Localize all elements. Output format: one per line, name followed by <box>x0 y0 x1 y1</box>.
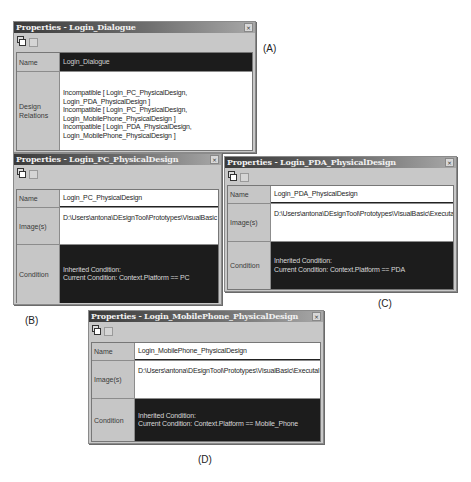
property-row-condition[interactable]: Condition Inherited Condition: Current C… <box>228 242 453 289</box>
property-row-images[interactable]: Image(s) D:\Users\antona\DEsignTool\Prot… <box>228 204 453 242</box>
property-value-condition[interactable]: Inherited Condition: Current Condition: … <box>135 399 320 441</box>
property-row-images[interactable]: Image(s) D:\Users\antona\DEsignTool\Prot… <box>17 208 218 245</box>
property-value[interactable]: Login_PC_PhysicalDesign <box>60 190 218 207</box>
property-label: Name <box>92 343 135 360</box>
property-table: Name Login_PDA_PhysicalDesign Image(s) D… <box>227 185 454 290</box>
property-grid-icon[interactable] <box>240 173 249 182</box>
relation-line: Incompatible [ Login_PDA_PhysicalDesign, <box>63 123 192 132</box>
close-icon[interactable]: × <box>312 312 321 321</box>
property-label: Condition <box>228 242 271 289</box>
property-row-name[interactable]: Name Login_PC_PhysicalDesign <box>17 190 218 208</box>
property-row-name[interactable]: Name Login_PDA_PhysicalDesign <box>228 186 453 204</box>
toolbar <box>14 165 221 181</box>
property-label: Image(s) <box>92 361 135 398</box>
window-titlebar[interactable]: Properties - Login_PDA_PhysicalDesign × <box>225 157 456 168</box>
property-value[interactable]: Login_MobilePhone_PhysicalDesign <box>135 343 320 360</box>
property-grid-icon[interactable] <box>29 38 38 47</box>
property-label: Design Relations <box>17 72 60 150</box>
property-label: Name <box>17 190 60 207</box>
property-value-design-relations[interactable]: Incompatible [ Login_PC_PhysicalDesign, … <box>60 72 252 150</box>
current-condition: Current Condition: Context.Platform == P… <box>63 274 190 283</box>
properties-pages-icon[interactable] <box>228 171 237 181</box>
property-value-images[interactable]: D:\Users\antona\DEsignTool\Prototypes\Vi… <box>135 361 320 398</box>
window-title: Properties - Login_Dialogue <box>16 22 136 32</box>
current-condition: Current Condition: Context.Platform == M… <box>138 420 298 429</box>
property-grid-icon[interactable] <box>104 327 113 336</box>
property-value-images[interactable]: D:\Users\antona\DEsignTool\Prototypes\Vi… <box>271 204 453 241</box>
property-label: Condition <box>17 245 60 303</box>
property-table: Name Login_PC_PhysicalDesign Image(s) D:… <box>16 189 219 303</box>
property-label: Image(s) <box>17 208 60 244</box>
property-value-images[interactable]: D:\Users\antona\DEsignTool\Prototypes\Vi… <box>60 208 218 244</box>
window-titlebar[interactable]: Properties - Login_PC_PhysicalDesign × <box>14 154 221 165</box>
properties-pages-icon[interactable] <box>17 36 26 46</box>
toolbar <box>14 33 255 49</box>
window-title: Properties - Login_PDA_PhysicalDesign <box>227 157 396 167</box>
relation-line: Login_MobilePhone_PhysicalDesign ] <box>63 132 175 141</box>
property-grid-icon[interactable] <box>29 170 38 179</box>
figure-caption-b: (B) <box>25 315 38 326</box>
figure-caption-c: (C) <box>378 298 392 309</box>
window-title: Properties - Login_PC_PhysicalDesign <box>16 154 178 164</box>
close-icon[interactable]: × <box>210 155 219 164</box>
property-value[interactable]: Login_Dialogue <box>60 53 252 71</box>
properties-window-login-pc: Properties - Login_PC_PhysicalDesign × N… <box>13 153 222 305</box>
inherited-condition: Inherited Condition: <box>63 266 121 275</box>
toolbar <box>89 322 323 338</box>
property-label: Name <box>228 186 271 203</box>
close-icon[interactable]: × <box>445 158 454 167</box>
window-titlebar[interactable]: Properties - Login_Dialogue × <box>14 22 255 33</box>
property-value[interactable]: Login_PDA_PhysicalDesign <box>271 186 453 203</box>
properties-pages-icon[interactable] <box>92 325 101 335</box>
inherited-condition: Inherited Condition: <box>274 257 332 266</box>
toolbar <box>225 168 456 184</box>
relation-line: Incompatible [ Login_PC_PhysicalDesign, <box>63 89 187 98</box>
property-row-condition[interactable]: Condition Inherited Condition: Current C… <box>17 245 218 303</box>
label-line: Design <box>19 102 41 111</box>
property-table: Name Login_MobilePhone_PhysicalDesign Im… <box>91 342 321 442</box>
relation-line: Incompatible [ Login_PC_PhysicalDesign, <box>63 106 187 115</box>
properties-pages-icon[interactable] <box>17 168 26 178</box>
property-row-condition[interactable]: Condition Inherited Condition: Current C… <box>92 399 320 441</box>
current-condition: Current Condition: Context.Platform == P… <box>274 266 405 275</box>
property-label: Name <box>17 53 60 71</box>
relation-line: Login_MobilePhone_PhysicalDesign ] <box>63 115 175 124</box>
property-row-design-relations[interactable]: Design Relations Incompatible [ Login_PC… <box>17 72 252 150</box>
figure-caption-d: (D) <box>198 454 212 465</box>
properties-window-login-pda: Properties - Login_PDA_PhysicalDesign × … <box>224 156 457 292</box>
properties-window-login-dialogue: Properties - Login_Dialogue × Name Login… <box>13 21 256 153</box>
window-title: Properties - Login_MobilePhone_PhysicalD… <box>91 311 298 321</box>
figure-caption-a: (A) <box>263 43 276 54</box>
property-value-condition[interactable]: Inherited Condition: Current Condition: … <box>60 245 218 303</box>
property-label: Image(s) <box>228 204 271 241</box>
close-icon[interactable]: × <box>244 23 253 32</box>
property-row-name[interactable]: Name Login_MobilePhone_PhysicalDesign <box>92 343 320 361</box>
property-value-condition[interactable]: Inherited Condition: Current Condition: … <box>271 242 453 289</box>
property-label: Condition <box>92 399 135 441</box>
property-table: Name Login_Dialogue Design Relations Inc… <box>16 52 253 151</box>
label-line: Relations <box>19 111 48 120</box>
property-row-images[interactable]: Image(s) D:\Users\antona\DEsignTool\Prot… <box>92 361 320 399</box>
properties-window-login-mobilephone: Properties - Login_MobilePhone_PhysicalD… <box>88 310 324 444</box>
inherited-condition: Inherited Condition: <box>138 412 196 421</box>
window-titlebar[interactable]: Properties - Login_MobilePhone_PhysicalD… <box>89 311 323 322</box>
relation-line: Login_PDA_PhysicalDesign ] <box>63 98 150 107</box>
property-row-name[interactable]: Name Login_Dialogue <box>17 53 252 72</box>
